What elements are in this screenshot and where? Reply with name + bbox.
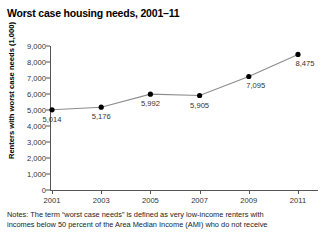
data-point-label: 5,176 bbox=[92, 112, 111, 121]
y-tick-label: 5,000 bbox=[27, 106, 46, 115]
data-point bbox=[49, 107, 54, 112]
x-tick-mark bbox=[150, 190, 151, 194]
data-point bbox=[246, 74, 251, 79]
chart-container: Renters with worst case needs (1,000) 01… bbox=[0, 28, 325, 208]
data-point bbox=[99, 105, 104, 110]
y-tick-label: 2,000 bbox=[27, 154, 46, 163]
y-tick-label: 6,000 bbox=[27, 90, 46, 99]
data-point bbox=[197, 93, 202, 98]
data-point bbox=[148, 92, 153, 97]
data-point-label: 5,992 bbox=[141, 99, 160, 108]
x-tick-mark bbox=[298, 190, 299, 194]
x-tick-label: 2003 bbox=[93, 196, 110, 205]
y-tick-label: 8,000 bbox=[27, 58, 46, 67]
x-tick-mark bbox=[200, 190, 201, 194]
x-axis-line bbox=[50, 190, 318, 191]
x-tick-mark bbox=[101, 190, 102, 194]
data-point-label: 8,475 bbox=[295, 59, 314, 68]
y-tick-label: 1,000 bbox=[27, 170, 46, 179]
data-point-label: 7,095 bbox=[246, 81, 265, 90]
x-tick-label: 2011 bbox=[290, 196, 306, 205]
y-axis-ticks: 01,0002,0003,0004,0005,0006,0007,0008,00… bbox=[0, 28, 46, 208]
notes-line-1: Notes: The term “worst case needs” is de… bbox=[7, 210, 319, 220]
x-tick-mark bbox=[249, 190, 250, 194]
data-point-label: 5,014 bbox=[42, 115, 61, 124]
x-tick-label: 2007 bbox=[191, 196, 208, 205]
chart-notes: Notes: The term “worst case needs” is de… bbox=[7, 210, 319, 229]
data-point-label: 5,905 bbox=[190, 101, 209, 110]
y-tick-label: 3,000 bbox=[27, 138, 46, 147]
notes-line-2: incomes below 50 percent of the Area Med… bbox=[7, 220, 319, 230]
x-tick-label: 2009 bbox=[240, 196, 257, 205]
chart-title: Worst case housing needs, 2001–11 bbox=[7, 7, 179, 19]
plot-area: 5,0145,1765,9925,9057,0958,475 bbox=[50, 46, 318, 190]
data-point bbox=[295, 52, 300, 57]
y-tick-label: 7,000 bbox=[27, 74, 46, 83]
x-tick-label: 2001 bbox=[44, 196, 61, 205]
x-tick-label: 2005 bbox=[142, 196, 159, 205]
y-tick-label: 9,000 bbox=[27, 42, 46, 51]
series-line-worst-case-needs bbox=[50, 46, 318, 190]
x-tick-mark bbox=[52, 190, 53, 194]
